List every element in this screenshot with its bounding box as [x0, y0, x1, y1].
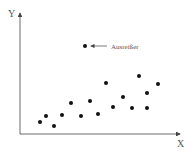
data-point	[104, 81, 108, 85]
outlier-point	[83, 44, 87, 48]
outlier-label: Ausreißer	[111, 43, 139, 51]
data-point	[79, 114, 83, 118]
data-point	[111, 105, 115, 109]
data-point	[145, 106, 149, 110]
data-point	[156, 82, 160, 86]
data-point	[38, 120, 42, 124]
data-point	[44, 114, 48, 118]
scatter-plot: Y X Ausreißer	[0, 0, 194, 153]
data-point	[96, 112, 100, 116]
data-point	[60, 113, 64, 117]
data-point	[52, 124, 56, 128]
x-axis-label: X	[177, 138, 185, 149]
data-point	[121, 95, 125, 99]
data-point	[130, 106, 134, 110]
data-point	[69, 101, 73, 105]
data-point	[88, 99, 92, 103]
data-points	[38, 74, 160, 128]
data-point	[137, 74, 141, 78]
y-axis-label: Y	[8, 8, 15, 19]
data-point	[145, 91, 149, 95]
